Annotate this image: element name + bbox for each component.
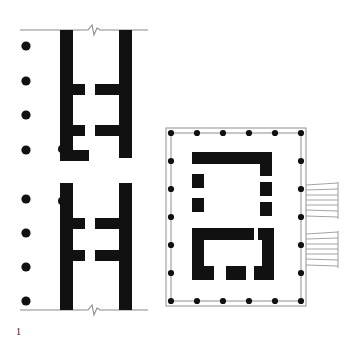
column-dot (246, 298, 252, 304)
column-dot (298, 130, 304, 136)
north-wall-return (260, 152, 272, 176)
column-dot (298, 186, 304, 192)
column-dot (298, 214, 304, 220)
upper-cross-wall-west (60, 218, 85, 229)
west-pier-lower (192, 198, 204, 212)
column-dot (21, 296, 30, 305)
lower-cross-wall-east (95, 250, 132, 261)
figure-caption-number: 1 (16, 326, 21, 338)
west-pier-upper (192, 174, 204, 188)
north-cella-block (192, 152, 272, 216)
column-dot (168, 270, 174, 276)
column-dot (272, 298, 278, 304)
break-symbol-icon (88, 305, 100, 315)
upper-cross-wall-west (60, 84, 85, 95)
column-dot (21, 228, 30, 237)
column-dot (298, 298, 304, 304)
column-dot (168, 214, 174, 220)
lower-wall-segment (58, 183, 132, 310)
column-dot (21, 41, 30, 50)
lower-cross-wall-east (95, 125, 132, 136)
left-plan-column-dots-lower (21, 194, 30, 305)
upper-cross-wall-east (95, 84, 132, 95)
column-dot (168, 186, 174, 192)
east-pier-upper (260, 182, 272, 196)
column-dot (194, 130, 200, 136)
south-upper-wall-east (258, 228, 274, 240)
column-dot (21, 194, 30, 203)
outer-right-wall (119, 183, 132, 310)
figure-root: 1 (0, 0, 344, 350)
upper-cross-wall-east (95, 218, 132, 229)
right-plan-group (166, 128, 338, 306)
column-dot (246, 130, 252, 136)
column-dot (220, 298, 226, 304)
lower-stairway (306, 231, 338, 268)
architectural-plan-svg (0, 0, 344, 350)
anta-dot (58, 197, 66, 205)
column-dot (298, 158, 304, 164)
column-dot (168, 158, 174, 164)
lower-cross-wall-west (60, 250, 85, 261)
column-dot (298, 270, 304, 276)
south-pier-mid (226, 266, 246, 280)
east-pier-lower (260, 202, 272, 216)
column-dot (298, 242, 304, 248)
column-dot (21, 110, 30, 119)
south-pier-west (192, 266, 214, 280)
column-dot (168, 242, 174, 248)
left-plan-group (20, 25, 148, 315)
upper-wall-segment (58, 30, 132, 161)
column-dot (272, 130, 278, 136)
lower-cross-wall-west (60, 125, 85, 136)
column-dot (21, 76, 30, 85)
anta-dot (58, 145, 66, 153)
column-dot (220, 130, 226, 136)
upper-stairway (306, 182, 338, 219)
column-dot (21, 145, 30, 154)
column-dot (21, 262, 30, 271)
column-dot (168, 130, 174, 136)
south-cella-block (192, 228, 274, 280)
break-symbol-icon (88, 25, 100, 35)
south-pier-east (254, 266, 274, 280)
column-dot (194, 298, 200, 304)
column-dot (168, 298, 174, 304)
left-plan-column-dots-upper (21, 41, 30, 154)
